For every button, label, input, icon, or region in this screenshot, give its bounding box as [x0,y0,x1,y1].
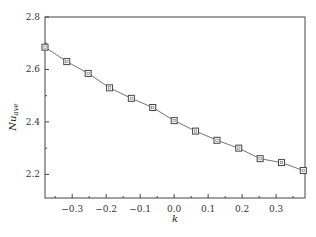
square-marker [85,70,91,76]
square-marker [171,118,177,124]
square-marker [150,105,156,111]
y-axis-label-main: Nu [7,116,18,132]
x-tick-label: −0.3 [61,204,83,214]
square-marker [236,145,242,151]
y-axis-label-sub: ave [12,103,20,115]
square-marker [214,137,220,143]
square-marker [42,44,48,50]
data-markers [42,44,306,173]
x-tick-label: 0.2 [235,204,249,214]
y-tick-label: 2.4 [26,117,41,127]
square-marker [128,95,134,101]
square-marker [257,156,263,162]
x-tick-label: −0.2 [95,204,117,214]
data-line [45,47,303,170]
y-axis-ticks: 2.22.42.62.8 [26,12,49,179]
square-marker [107,85,113,91]
square-marker [64,59,70,65]
x-tick-label: −0.1 [129,204,151,214]
x-axis-ticks: −0.3−0.2−0.10.00.10.20.3 [55,194,293,214]
y-tick-label: 2.8 [26,12,41,22]
line-chart: −0.3−0.2−0.10.00.10.20.3 2.22.42.62.8 k … [0,0,316,237]
x-axis-label: k [172,213,178,224]
y-tick-label: 2.6 [26,64,41,74]
x-tick-label: 0.3 [269,204,284,214]
plot-frame [45,17,305,198]
square-marker [193,128,199,134]
square-marker [279,160,285,166]
y-axis-label: Nuave [7,103,20,131]
y-tick-label: 2.2 [26,169,40,179]
square-marker [300,167,306,173]
x-tick-label: 0.1 [201,204,215,214]
